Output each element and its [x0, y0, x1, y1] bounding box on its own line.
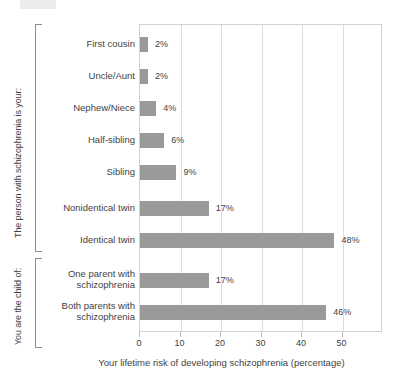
category-label: First cousin — [15, 38, 135, 49]
category-label: Identical twin — [15, 234, 135, 245]
bar-row: 9% — [140, 161, 196, 183]
category-label: Nonidentical twin — [15, 202, 135, 213]
bar-value-label: 9% — [183, 167, 196, 177]
bar-value-label: 2% — [155, 39, 168, 49]
x-tick-label: 0 — [136, 338, 141, 348]
bar — [140, 233, 334, 248]
bar — [140, 165, 176, 180]
gridline-50 — [343, 25, 344, 331]
bar-row: 6% — [140, 129, 184, 151]
x-tick-20 — [220, 332, 221, 337]
bar-row: 17% — [140, 269, 234, 291]
category-label: Uncle/Aunt — [15, 70, 135, 81]
bar-row: 4% — [140, 97, 176, 119]
bar-row: 46% — [140, 301, 351, 323]
x-tick-label: 20 — [215, 338, 225, 348]
gridline-40 — [302, 25, 303, 331]
bar — [140, 133, 164, 148]
scan-artifact — [20, 0, 56, 9]
x-tick-50 — [342, 332, 343, 337]
x-tick-label: 30 — [255, 338, 265, 348]
x-tick-label: 50 — [336, 338, 346, 348]
bar-row: 17% — [140, 197, 234, 219]
bar-row: 2% — [140, 33, 168, 55]
bar-row: 2% — [140, 65, 168, 87]
x-tick-label: 10 — [174, 338, 184, 348]
bar-row: 48% — [140, 229, 359, 251]
x-axis: 01020304050 — [139, 332, 382, 354]
bar-value-label: 4% — [163, 103, 176, 113]
x-tick-10 — [180, 332, 181, 337]
bar — [140, 37, 148, 52]
bar — [140, 201, 209, 216]
bar — [140, 305, 326, 320]
bar — [140, 69, 148, 84]
category-label: Half-sibling — [15, 134, 135, 145]
bar-value-label: 46% — [333, 307, 351, 317]
x-tick-30 — [261, 332, 262, 337]
gridline-30 — [262, 25, 263, 331]
category-axis-labels: First cousinUncle/AuntNephew/NieceHalf-s… — [14, 24, 135, 332]
plot-area: 2%2%4%6%9%17%48%17%46% — [139, 24, 382, 332]
bar — [140, 101, 156, 116]
bar-value-label: 17% — [216, 203, 234, 213]
category-label: Both parents with schizophrenia — [15, 300, 135, 322]
x-axis-title: Your lifetime risk of developing schizop… — [0, 357, 407, 368]
bar-value-label: 17% — [216, 275, 234, 285]
category-label: Nephew/Niece — [15, 102, 135, 113]
bar — [140, 273, 209, 288]
category-label: One parent with schizophrenia — [15, 268, 135, 290]
x-tick-40 — [301, 332, 302, 337]
x-tick-label: 40 — [296, 338, 306, 348]
bar-value-label: 6% — [171, 135, 184, 145]
category-label: Sibling — [15, 166, 135, 177]
x-tick-0 — [139, 332, 140, 337]
schizophrenia-risk-bar-chart: The person with schizophrenia is your: Y… — [0, 0, 407, 382]
bar-value-label: 2% — [155, 71, 168, 81]
bar-value-label: 48% — [341, 235, 359, 245]
